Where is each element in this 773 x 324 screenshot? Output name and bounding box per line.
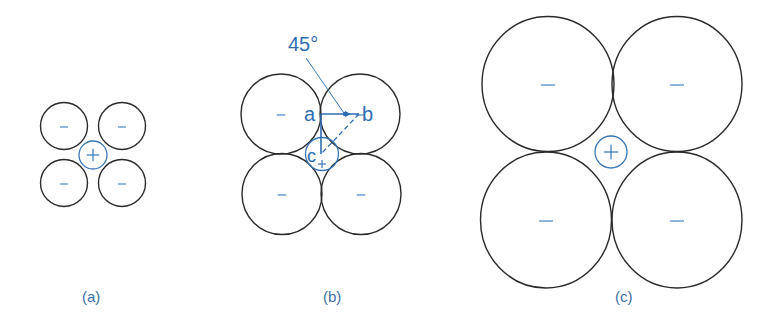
panel-caption-c: (c)	[615, 288, 633, 305]
panel-c: (c)	[481, 17, 743, 306]
anion-circle	[482, 17, 614, 152]
point-a-label: a	[304, 103, 316, 125]
panel-caption-b: (b)	[323, 288, 341, 305]
anion-circle	[41, 103, 88, 150]
angle-marker-dot	[343, 112, 347, 116]
ion-packing-figure: (a)45°abc(b)(c)	[0, 0, 773, 324]
panel-b: 45°abc(b)	[241, 33, 401, 305]
anion-circle	[612, 17, 742, 152]
point-b-label: b	[362, 103, 373, 125]
anion-circle	[612, 152, 742, 288]
anion-circle	[99, 160, 146, 207]
panel-a: (a)	[41, 103, 146, 306]
angle-label: 45°	[288, 33, 318, 55]
point-c-label: c	[307, 146, 316, 166]
panel-caption-a: (a)	[82, 288, 100, 305]
anion-circle	[99, 103, 146, 150]
anion-circle	[41, 160, 88, 207]
anion-circle	[481, 152, 612, 288]
